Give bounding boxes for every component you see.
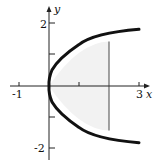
y-tick-label-2: 2 — [40, 18, 47, 31]
x-tick-label-minus1: -1 — [12, 88, 23, 101]
y-axis-label: y — [53, 3, 61, 16]
x-axis-label: x — [146, 88, 153, 101]
y-tick-label-minus2: -2 — [34, 142, 45, 155]
plot-canvas: -1 3 x y 2 -2 — [0, 0, 159, 167]
parabola-diagram: -1 3 x y 2 -2 — [0, 0, 159, 167]
x-tick-label-3: 3 — [136, 88, 143, 101]
y-axis-arrow-icon — [47, 6, 52, 12]
